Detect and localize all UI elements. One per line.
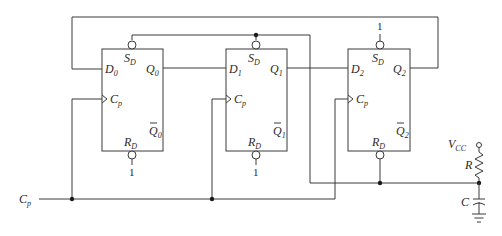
junction-dot (70, 197, 74, 201)
rd-bubble (252, 151, 260, 159)
sd-bubble (252, 41, 260, 49)
clock-wire-ff0 (72, 99, 102, 199)
circuit-diagram: Cp 1 D0 Q0 Cp SD RD Q0 1 D1 Q1 Cp SD RD … (0, 0, 502, 236)
sd-tie-label: 1 (377, 20, 383, 32)
flipflop-0: 1 D0 Q0 Cp SD RD Q0 (102, 41, 163, 178)
sd-bubble (376, 41, 384, 49)
vcc-label: VCC (448, 137, 467, 153)
rd-bubble (128, 151, 136, 159)
clock-wire-ff1 (212, 99, 226, 199)
junction-dot (254, 33, 258, 37)
junction-dot (210, 197, 214, 201)
rd-tie-label: 1 (129, 166, 135, 178)
rd-tie-label: 1 (253, 166, 259, 178)
clock-input-label: Cp (19, 192, 31, 208)
junction-dot (378, 181, 382, 185)
resistor-label: R (464, 158, 473, 172)
flipflop-1: 1 D1 Q1 Cp SD RD Q1 (226, 41, 287, 178)
vcc-terminal (477, 143, 482, 148)
rc-reset-network: VCC R C (448, 137, 486, 222)
sd-bubble (128, 41, 136, 49)
clock-wire-ff2 (335, 99, 348, 199)
capacitor-label: C (461, 195, 470, 209)
resistor-icon (475, 148, 483, 184)
preset-bus-wire (132, 35, 479, 183)
rd-bubble (376, 151, 384, 159)
flipflop-2: 1 D2 Q2 Cp SD RD Q2 (348, 20, 410, 185)
